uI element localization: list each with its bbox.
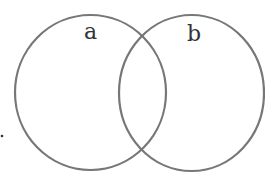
set-a-label: a <box>84 19 97 44</box>
set-b-label: b <box>187 21 201 46</box>
dot-marker <box>1 135 4 138</box>
venn-diagram: a b <box>0 0 265 179</box>
